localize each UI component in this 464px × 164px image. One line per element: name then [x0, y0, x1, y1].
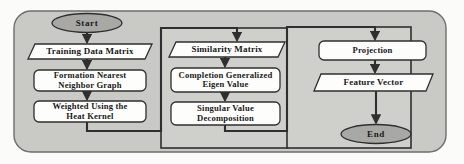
flowchart-diagram: Start Training Data Matrix Formation Nea… — [0, 0, 464, 164]
node-feature-vector[interactable] — [314, 74, 433, 91]
node-completion-generalized-eigen-value[interactable] — [171, 68, 280, 92]
node-end[interactable] — [341, 125, 411, 144]
node-training-data-matrix[interactable] — [28, 44, 152, 59]
node-weighted-heat-kernel[interactable] — [34, 101, 146, 122]
flowchart-canvas — [0, 0, 464, 164]
node-start[interactable] — [52, 14, 122, 33]
node-similarity-matrix[interactable] — [169, 42, 285, 57]
node-projection[interactable] — [319, 41, 426, 60]
node-singular-value-decomposition[interactable] — [171, 102, 280, 125]
node-formation-nearest-neighbor-graph[interactable] — [34, 70, 146, 91]
